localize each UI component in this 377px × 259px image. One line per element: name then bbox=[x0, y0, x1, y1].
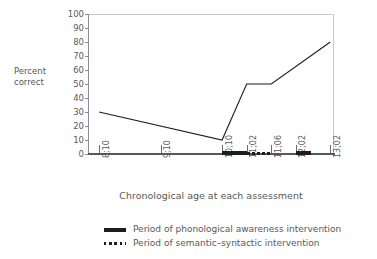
data-series-line bbox=[88, 14, 334, 154]
y-axis-tick-label: 0 bbox=[60, 150, 84, 159]
y-axis-tick-label: 90 bbox=[60, 24, 84, 33]
y-axis-tick-label: 70 bbox=[60, 52, 84, 61]
legend-label-semantic-syntactic: Period of semantic–syntactic interventio… bbox=[133, 238, 319, 248]
legend-item-semantic-syntactic: Period of semantic–syntactic interventio… bbox=[104, 236, 354, 250]
y-axis-tick-label: 100 bbox=[60, 10, 84, 19]
solid-line-swatch-icon bbox=[104, 222, 126, 236]
y-axis-tick-label: 80 bbox=[60, 38, 84, 47]
y-axis-tick-label: 60 bbox=[60, 66, 84, 75]
dotted-line-swatch-icon bbox=[104, 236, 126, 250]
chart-legend: Period of phonological awareness interve… bbox=[104, 222, 354, 250]
chart-figure: Percent correct 1009080706050403020100 8… bbox=[0, 0, 377, 259]
y-axis-tick-label: 50 bbox=[60, 80, 84, 89]
legend-item-phonological: Period of phonological awareness interve… bbox=[104, 222, 354, 236]
x-axis-title: Chronological age at each assessment bbox=[88, 190, 334, 201]
legend-label-phonological: Period of phonological awareness interve… bbox=[133, 224, 341, 234]
y-axis-tick-label: 20 bbox=[60, 122, 84, 131]
y-axis-tick-label: 40 bbox=[60, 94, 84, 103]
y-axis-tick-label: 30 bbox=[60, 108, 84, 117]
y-axis-tick-label: 10 bbox=[60, 136, 84, 145]
phonological-bar-2 bbox=[296, 151, 311, 155]
semantic-syntactic-bar bbox=[247, 152, 272, 155]
phonological-bar-1 bbox=[222, 151, 247, 155]
series-polyline bbox=[99, 42, 330, 140]
